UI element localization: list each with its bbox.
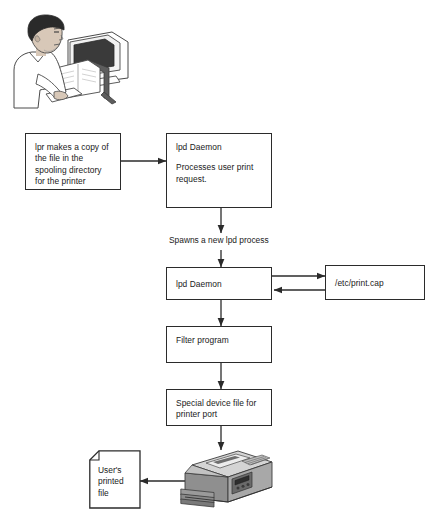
users-printed-file-label: User's printed file	[98, 465, 142, 499]
node-lpr-copy-label: lpr makes a copy of the file in the spoo…	[35, 142, 111, 188]
node-print-cap: /etc/print.cap	[325, 265, 425, 300]
node-lpd-daemon-1-label: lpd Daemon	[176, 142, 262, 153]
node-print-cap-label: /etc/print.cap	[335, 278, 384, 289]
connector-layer	[0, 0, 440, 525]
node-lpd-daemon-2-label: lpd Daemon	[176, 279, 222, 290]
printing-flow-diagram: lpr makes a copy of the file in the spoo…	[0, 0, 440, 525]
node-filter-program: Filter program	[166, 326, 272, 363]
label-spawns-new-lpd-process: Spawns a new lpd process	[169, 235, 269, 246]
node-filter-program-label: Filter program	[176, 335, 262, 346]
node-lpd-daemon-1-detail: Processes user print request.	[176, 162, 262, 185]
node-lpd-daemon-1: lpd Daemon Processes user print request.	[166, 133, 272, 208]
node-special-device-file-label: Special device file for printer port	[176, 398, 262, 421]
printer-illustration	[180, 449, 278, 511]
node-lpr-copy: lpr makes a copy of the file in the spoo…	[25, 133, 121, 190]
node-special-device-file: Special device file for printer port	[166, 389, 272, 426]
node-lpd-daemon-2: lpd Daemon	[166, 267, 272, 300]
